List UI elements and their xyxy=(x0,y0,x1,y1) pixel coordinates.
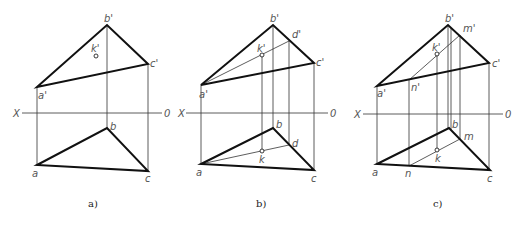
label-c-prime: c' xyxy=(316,57,324,68)
point-k xyxy=(435,148,439,152)
label-k-prime: k' xyxy=(91,43,100,54)
label-a-prime: a' xyxy=(199,89,208,100)
panel-a: X 0 b' c' a' k' b a c a) xyxy=(12,13,170,209)
label-d: d xyxy=(292,138,299,149)
label-m: m xyxy=(464,131,474,142)
axis-x-label: X xyxy=(177,108,186,119)
label-b-prime: b' xyxy=(104,13,113,24)
panel-c: X 0 b' m' k' c' n' a' b m k a n c c) xyxy=(353,13,511,209)
label-a-prime: a' xyxy=(38,90,47,101)
panel-b: X 0 b' d' k' c' a' b d k a c b) xyxy=(177,13,336,209)
label-c-prime: c' xyxy=(492,58,500,69)
front-view-triangle xyxy=(37,25,148,87)
point-k-prime xyxy=(94,54,98,58)
label-a-prime: a' xyxy=(377,88,386,99)
caption-c: c) xyxy=(433,198,443,209)
caption-b: b) xyxy=(256,198,266,209)
label-k: k xyxy=(435,153,442,164)
label-k-prime: k' xyxy=(432,42,441,53)
label-b-prime: b' xyxy=(270,13,279,24)
caption-a: a) xyxy=(88,198,98,209)
label-a: a xyxy=(372,167,378,178)
aux-line-a-d xyxy=(201,145,289,164)
top-view-triangle xyxy=(37,128,148,171)
axis-o-label: 0 xyxy=(505,109,511,120)
label-b-prime: b' xyxy=(445,13,454,24)
projection-diagram: X 0 b' c' a' k' b a c a) X 0 b' d' k' c'… xyxy=(0,0,516,226)
label-k-prime: k' xyxy=(257,43,266,54)
axis-x-label: X xyxy=(12,108,21,119)
label-c: c xyxy=(145,173,151,184)
label-k: k xyxy=(259,154,266,165)
label-d-prime: d' xyxy=(292,29,301,40)
label-b: b xyxy=(110,121,116,132)
axis-o-label: 0 xyxy=(164,108,170,119)
label-c: c xyxy=(487,173,493,184)
label-c: c xyxy=(311,173,317,184)
label-m-prime: m' xyxy=(463,23,476,34)
label-a: a xyxy=(196,167,202,178)
label-n-prime: n' xyxy=(411,82,420,93)
label-a: a xyxy=(32,168,38,179)
axis-x-label: X xyxy=(353,109,362,120)
front-view-triangle xyxy=(377,25,489,86)
point-k xyxy=(260,149,264,153)
label-b: b xyxy=(452,119,458,130)
axis-o-label: 0 xyxy=(330,108,336,119)
label-n: n xyxy=(405,168,411,179)
label-b: b xyxy=(276,119,282,130)
label-c-prime: c' xyxy=(150,58,158,69)
top-view-triangle xyxy=(201,128,314,170)
